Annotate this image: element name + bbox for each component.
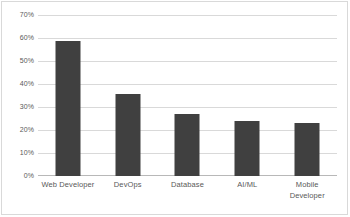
x-tick-label-database: Database [158,179,218,190]
bar-chart: 70% 60% 50% 40% 30% 20% 10% 0% [0,0,350,217]
y-tick-label: 70% [2,11,34,19]
bar-database[interactable] [175,114,200,176]
y-axis: 70% 60% 50% 40% 30% 20% 10% 0% [0,15,34,176]
y-tick-label: 50% [2,57,34,65]
y-tick-label: 40% [2,80,34,88]
x-tick-label-mobile-developer: Mobile Developer [285,179,329,201]
y-tick-label: 30% [2,103,34,111]
plot-area [38,15,337,176]
y-tick-label: 0% [2,172,34,180]
bar-slot [98,15,158,176]
bar-slot [277,15,337,176]
y-tick-label: 10% [2,149,34,157]
x-tick-label-ai-ml: AI/ML [217,179,277,190]
bar-devops[interactable] [115,94,140,176]
y-tick-label: 20% [2,126,34,134]
bar-slot [158,15,218,176]
bars-layer [38,15,337,176]
bar-ai-ml[interactable] [235,121,260,176]
bar-web-developer[interactable] [55,41,80,176]
y-tick-label: 60% [2,34,34,42]
x-axis: Web Developer DevOps Database AI/ML Mobi… [38,179,337,215]
bar-slot [38,15,98,176]
x-tick-label-devops: DevOps [98,179,158,190]
x-tick-label-web-developer: Web Developer [38,179,98,190]
bar-slot [217,15,277,176]
bar-mobile-developer[interactable] [295,123,320,176]
